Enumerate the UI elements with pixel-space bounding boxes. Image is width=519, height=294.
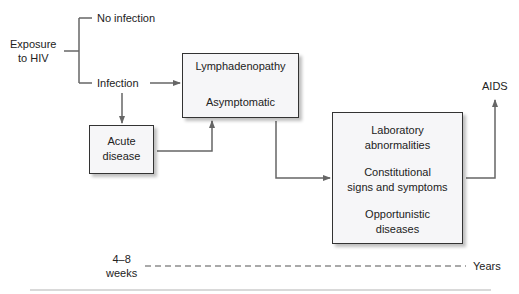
lab-line1: Laboratory — [333, 123, 462, 138]
acute-line2: disease — [90, 149, 153, 164]
opp-line2: diseases — [333, 222, 462, 237]
exposure-label: Exposure to HIV — [10, 37, 56, 65]
timeline-start-line2: weeks — [106, 266, 137, 280]
infection-label: Infection — [97, 76, 139, 90]
exposure-line1: Exposure — [10, 37, 56, 51]
aids-label: AIDS — [482, 79, 508, 93]
lymphadenopathy-box: Lymphadenopathy Asymptomatic — [182, 53, 299, 118]
acute-line1: Acute — [90, 134, 153, 149]
hiv-progression-diagram: Exposure to HIV No infection Infection A… — [0, 0, 519, 294]
const-line2: signs and symptoms — [333, 180, 462, 195]
no-infection-label: No infection — [97, 11, 155, 25]
exposure-line2: to HIV — [10, 51, 56, 65]
timeline-start-label: 4–8 weeks — [106, 252, 137, 280]
lab-line2: abnormalities — [333, 138, 462, 153]
asymptomatic-label: Asymptomatic — [183, 96, 298, 108]
const-line1: Constitutional — [333, 165, 462, 180]
late-stage-box: Laboratory abnormalities Constitutional … — [332, 112, 463, 244]
opp-line1: Opportunistic — [333, 207, 462, 222]
timeline-end-label: Years — [473, 259, 501, 273]
lymphadenopathy-label: Lymphadenopathy — [183, 60, 298, 72]
acute-disease-box: Acute disease — [89, 125, 154, 174]
timeline-start-line1: 4–8 — [106, 252, 137, 266]
